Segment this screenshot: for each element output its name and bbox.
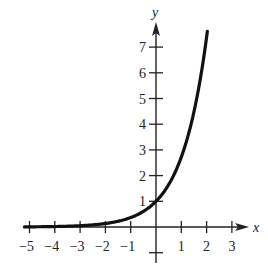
y-tick-label: 6 xyxy=(139,66,146,81)
y-axis-label: y xyxy=(150,5,159,20)
x-tick-label: −5 xyxy=(19,239,34,254)
x-tick-label: −4 xyxy=(44,239,59,254)
x-tick-label: 1 xyxy=(178,239,185,254)
x-tick-label: −2 xyxy=(95,239,110,254)
exponential-curve xyxy=(24,31,207,227)
y-tick-label: 4 xyxy=(139,117,146,132)
x-tick-label: −3 xyxy=(70,239,85,254)
x-tick-label: 2 xyxy=(203,239,210,254)
exponential-chart: −5−4−3−2−11231234567 x y xyxy=(0,0,268,268)
y-tick-label: 5 xyxy=(139,92,146,107)
y-tick-label: 2 xyxy=(139,169,146,184)
x-tick-label: −1 xyxy=(120,239,135,254)
y-tick-label: 1 xyxy=(139,194,146,209)
x-tick-label: 3 xyxy=(228,239,235,254)
y-tick-label: 7 xyxy=(139,40,146,55)
x-axis-label: x xyxy=(252,220,260,235)
y-tick-label: 3 xyxy=(139,143,146,158)
